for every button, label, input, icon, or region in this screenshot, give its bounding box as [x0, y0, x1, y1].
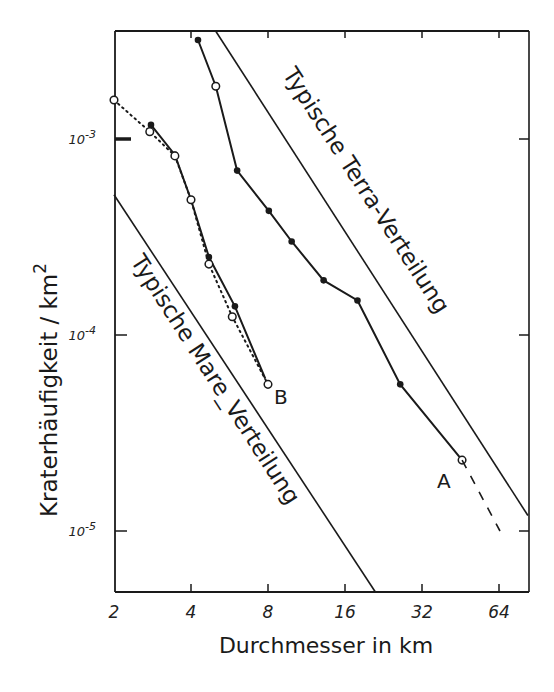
- data-point-open: [228, 313, 236, 321]
- x-tick-label: 4: [186, 602, 197, 622]
- data-point-open: [187, 196, 195, 204]
- x-tick-label: 32: [411, 602, 433, 622]
- svg-text:Kraterhäufigkeit / km2: Kraterhäufigkeit / km2: [30, 263, 62, 517]
- data-point-open: [212, 82, 220, 90]
- data-point-filled: [234, 167, 241, 174]
- data-point-filled: [397, 381, 404, 388]
- curve-a-label: A: [437, 469, 451, 493]
- data-point-open: [264, 381, 272, 389]
- x-tick-label: 2: [109, 602, 120, 622]
- mare-distribution-label: Typische Mare_Verteilung: [125, 249, 305, 509]
- series-line: [114, 195, 375, 592]
- y-axis-ticks: 10-310-410-5: [68, 128, 529, 539]
- data-point-filled: [195, 37, 202, 44]
- x-tick-label: 64: [488, 602, 510, 622]
- terra-distribution-label: Typische Terra-Verteilung: [277, 62, 455, 318]
- data-point-filled: [288, 238, 295, 245]
- x-tick-label: 16: [334, 602, 356, 622]
- y-tick-label: 10-5: [68, 520, 96, 539]
- y-axis-title-text: Kraterhäufigkeit / km: [36, 274, 62, 517]
- crater-frequency-chart: 248163264 10-310-410-5 Typische Terra-Ve…: [0, 0, 554, 692]
- data-point-filled: [148, 122, 155, 129]
- data-point-filled: [354, 297, 361, 304]
- data-point-open: [146, 128, 154, 136]
- x-axis-title: Durchmesser in km: [219, 633, 433, 658]
- y-tick-label: 10-4: [68, 324, 96, 343]
- data-point-open: [205, 260, 213, 268]
- x-tick-label: 8: [263, 602, 274, 622]
- curve-b-label: B: [274, 385, 288, 409]
- data-point-open: [171, 152, 179, 160]
- data-point-open: [110, 96, 118, 104]
- data-point-filled: [232, 303, 239, 310]
- data-point-open: [458, 456, 466, 464]
- y-axis-title: Kraterhäufigkeit / km2: [30, 263, 62, 517]
- data-point-filled: [320, 277, 327, 284]
- series-line: [462, 460, 500, 531]
- y-axis-title-sup: 2: [30, 263, 50, 274]
- y-tick-label: 10-3: [68, 128, 96, 147]
- series-line: [151, 125, 265, 379]
- data-point-filled: [266, 208, 273, 215]
